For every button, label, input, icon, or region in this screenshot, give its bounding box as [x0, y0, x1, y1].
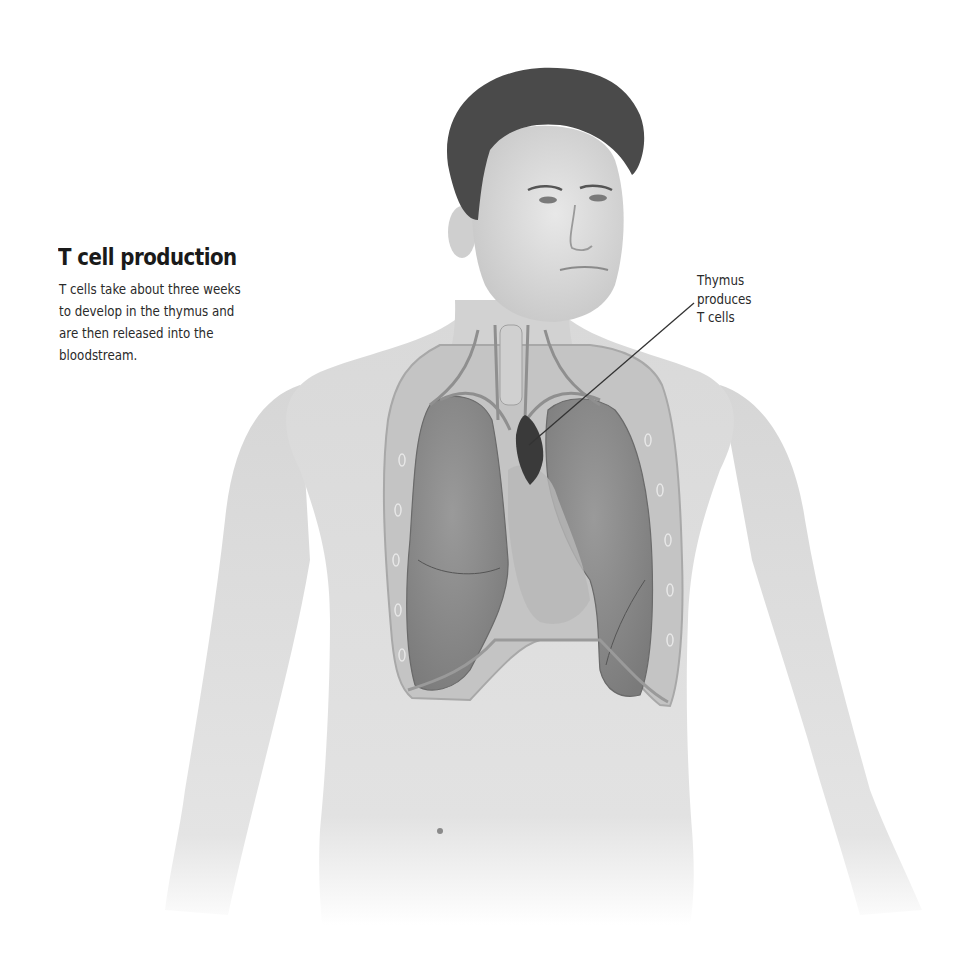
- navel: [437, 828, 443, 834]
- left-arm: [165, 385, 310, 915]
- diagram-description: T cells take about three weeks to develo…: [59, 278, 279, 366]
- diagram-canvas: T cell production T cells take about thr…: [0, 0, 977, 974]
- head: [447, 68, 644, 322]
- eye-left: [539, 197, 557, 204]
- callout-line: Thymus: [697, 271, 752, 290]
- anatomy-illustration: [0, 0, 977, 974]
- eye-right: [589, 195, 607, 202]
- face: [472, 126, 624, 322]
- description-line: bloodstream.: [59, 344, 279, 366]
- diagram-title: T cell production: [58, 244, 237, 270]
- callout-line: T cells: [697, 308, 752, 327]
- callout-line: produces: [697, 290, 752, 309]
- trachea: [500, 325, 522, 405]
- thymus-callout-label: Thymus produces T cells: [697, 271, 752, 327]
- description-line: T cells take about three weeks: [59, 278, 279, 300]
- right-arm: [720, 385, 922, 915]
- description-line: to develop in the thymus and: [59, 300, 279, 322]
- description-line: are then released into the: [59, 322, 279, 344]
